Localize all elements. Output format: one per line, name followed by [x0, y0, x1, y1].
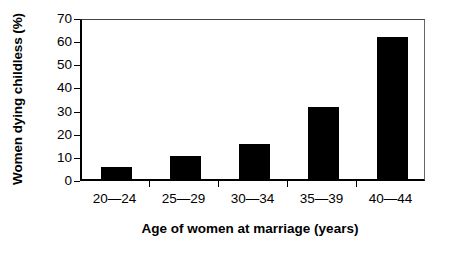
x-tick-label: 25—29 — [149, 192, 218, 206]
y-axis-tick-labels: 010203040506070 — [40, 0, 72, 255]
bars-layer — [82, 20, 424, 179]
x-tick-mark — [287, 181, 288, 187]
bar — [101, 167, 132, 179]
bar — [239, 144, 270, 179]
x-tick-label: 40—44 — [356, 192, 425, 206]
y-tick-label: 60 — [40, 35, 72, 49]
x-tick-label: 30—34 — [218, 192, 287, 206]
y-tick-mark — [74, 135, 80, 136]
bar-chart-figure: Women dying childless (%) 01020304050607… — [0, 0, 452, 255]
y-axis-title: Women dying childless (%) — [4, 8, 30, 190]
y-tick-mark — [74, 19, 80, 20]
y-tick-mark — [74, 42, 80, 43]
y-tick-mark — [74, 65, 80, 66]
y-tick-mark — [74, 112, 80, 113]
y-tick-mark — [74, 181, 80, 182]
x-tick-label: 35—39 — [287, 192, 356, 206]
plot-area — [80, 19, 425, 181]
y-tick-mark — [74, 88, 80, 89]
y-tick-label: 40 — [40, 81, 72, 95]
bar — [308, 107, 339, 179]
y-tick-label: 30 — [40, 105, 72, 119]
y-tick-label: 10 — [40, 151, 72, 165]
y-tick-label: 70 — [40, 12, 72, 26]
y-tick-mark — [74, 158, 80, 159]
y-tick-label: 50 — [40, 58, 72, 72]
x-axis-tick-labels: 20—2425—2930—3435—3940—44 — [80, 192, 425, 212]
y-tick-label: 20 — [40, 128, 72, 142]
x-tick-mark — [149, 181, 150, 187]
x-tick-label: 20—24 — [80, 192, 149, 206]
bar — [377, 37, 408, 179]
x-tick-mark — [356, 181, 357, 187]
y-tick-label: 0 — [40, 174, 72, 188]
x-tick-mark — [218, 181, 219, 187]
x-axis-title: Age of women at marriage (years) — [60, 221, 440, 236]
bar — [170, 156, 201, 179]
